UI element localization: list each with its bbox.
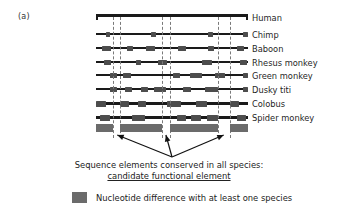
nucleotide-difference-mark — [196, 101, 207, 107]
nucleotide-difference-mark — [123, 73, 131, 78]
species-label-colobus: Colobus — [252, 100, 285, 108]
alignment-track-dusky-titi — [96, 85, 248, 93]
nucleotide-difference-mark — [125, 87, 132, 92]
nucleotide-difference-mark — [106, 32, 111, 37]
nucleotide-difference-mark — [151, 32, 156, 37]
caption-line-2: candidate functional element — [0, 171, 338, 182]
species-label-dusky-titi: Dusky titi — [252, 86, 291, 94]
sequence-backbone — [96, 61, 248, 63]
figure-caption: Sequence elements conserved in all speci… — [0, 160, 338, 183]
panel-label: (a) — [18, 12, 30, 21]
sequence-backbone — [96, 47, 248, 49]
nucleotide-difference-mark — [191, 115, 201, 121]
species-label-rhesus-monkey: Rhesus monkey — [252, 59, 318, 67]
nucleotide-difference-mark — [173, 73, 181, 78]
conserved-region-guide-line — [113, 17, 114, 138]
nucleotide-difference-mark — [177, 115, 186, 121]
nucleotide-difference-mark — [202, 60, 212, 65]
nucleotide-difference-mark — [146, 46, 155, 51]
nucleotide-difference-mark — [104, 60, 111, 65]
sequence-backbone — [96, 116, 248, 119]
arrow-to-region-1 — [117, 135, 172, 157]
nucleotide-difference-mark — [178, 46, 186, 51]
alignment-track-human — [96, 14, 248, 20]
nucleotide-difference-mark — [100, 115, 111, 121]
species-label-green-monkey: Green monkey — [252, 72, 313, 80]
summary-bar-segment — [170, 124, 218, 132]
sequence-backbone — [96, 33, 248, 35]
arrow-to-region-2 — [165, 135, 172, 157]
sequence-backbone — [96, 88, 248, 90]
legend: Nucleotide difference with at least one … — [72, 192, 292, 203]
species-label-spider-monkey: Spider monkey — [252, 114, 314, 122]
nucleotide-difference-mark — [208, 32, 213, 37]
conservation-summary-bar — [96, 124, 248, 132]
nucleotide-difference-mark — [138, 101, 146, 107]
summary-bar-segment — [120, 124, 162, 132]
summary-bar-segment — [230, 124, 248, 132]
legend-label: Nucleotide difference with at least one … — [96, 193, 292, 203]
nucleotide-difference-mark — [205, 87, 217, 92]
nucleotide-difference-mark — [215, 73, 225, 78]
nucleotide-difference-mark — [240, 60, 247, 65]
alignment-track-rhesus-monkey — [96, 58, 248, 66]
alignment-track-green-monkey — [96, 71, 248, 79]
alignment-tracks-area — [96, 14, 248, 138]
species-label-chimp: Chimp — [252, 31, 279, 39]
species-label-human: Human — [252, 14, 282, 22]
conserved-region-arrows — [96, 132, 248, 158]
arrows-svg — [96, 132, 248, 158]
reference-bar-right-cap — [246, 14, 248, 20]
alignment-track-colobus — [96, 99, 248, 107]
reference-sequence-bar — [96, 14, 248, 17]
nucleotide-difference-mark — [136, 60, 141, 65]
nucleotide-difference-mark — [141, 87, 149, 92]
nucleotide-difference-mark — [208, 46, 214, 51]
conserved-region-guide-line — [120, 17, 121, 138]
nucleotide-difference-mark — [132, 115, 146, 121]
summary-bar-segment — [96, 124, 113, 132]
nucleotide-difference-mark — [183, 87, 191, 92]
nucleotide-difference-mark — [230, 101, 239, 107]
nucleotide-difference-mark — [237, 115, 246, 121]
conserved-region-guide-line — [162, 17, 163, 138]
nucleotide-difference-mark — [154, 87, 166, 92]
conserved-region-guide-line — [230, 17, 231, 138]
conserved-region-guide-line — [170, 17, 171, 138]
nucleotide-difference-mark — [207, 115, 218, 121]
conservation-alignment-figure: (a) Sequence elements conserved in all s… — [0, 0, 338, 214]
nucleotide-difference-mark — [96, 101, 106, 107]
alignment-track-spider-monkey — [96, 113, 248, 121]
conserved-region-guide-line — [218, 17, 219, 138]
nucleotide-difference-swatch — [72, 192, 87, 203]
nucleotide-difference-mark — [237, 46, 245, 51]
species-label-baboon: Baboon — [252, 45, 283, 53]
nucleotide-difference-mark — [120, 101, 129, 107]
nucleotide-difference-mark — [127, 46, 133, 51]
caption-line-1: Sequence elements conserved in all speci… — [0, 160, 338, 171]
nucleotide-difference-mark — [243, 73, 248, 78]
nucleotide-difference-mark — [243, 32, 248, 37]
nucleotide-difference-mark — [102, 46, 111, 51]
nucleotide-difference-mark — [243, 87, 248, 92]
alignment-track-chimp — [96, 30, 248, 38]
reference-bar-left-cap — [96, 14, 98, 20]
alignment-track-baboon — [96, 44, 248, 52]
arrow-to-region-3 — [172, 135, 224, 157]
nucleotide-difference-mark — [190, 73, 201, 78]
